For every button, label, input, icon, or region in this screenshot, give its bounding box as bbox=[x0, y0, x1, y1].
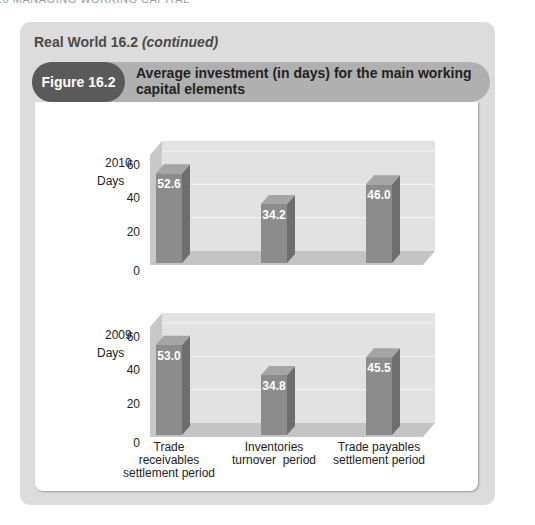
y-tick-label: 40 bbox=[120, 191, 140, 205]
running-head: 16 MANAGING WORKING CAPITAL bbox=[0, 0, 190, 5]
y-tick-label: 40 bbox=[120, 363, 140, 377]
bar-value-label: 46.0 bbox=[362, 188, 396, 202]
chart-2009: 53.034.845.52009Days0204060 bbox=[35, 274, 478, 449]
box-title: Real World 16.2 (continued) bbox=[34, 34, 218, 50]
figure-title: Average investment (in days) for the mai… bbox=[136, 65, 476, 97]
y-axis-title: Days bbox=[97, 174, 124, 188]
box-title-suffix: (continued) bbox=[142, 34, 218, 50]
chart-plot bbox=[35, 274, 478, 449]
bar-value-label: 34.2 bbox=[257, 208, 291, 222]
y-axis-title: Days bbox=[97, 346, 124, 360]
y-tick-label: 20 bbox=[120, 397, 140, 411]
bar-value-label: 45.5 bbox=[362, 361, 396, 375]
x-category-label: Trade payablessettlement period bbox=[329, 441, 429, 467]
y-tick-label: 60 bbox=[120, 158, 140, 172]
chart-2010: 52.634.246.02010Days0204060 bbox=[35, 102, 478, 277]
figure-number-badge: Figure 16.2 bbox=[32, 62, 125, 102]
chart-plot bbox=[35, 102, 478, 277]
x-category-label: Inventoriesturnover period bbox=[224, 441, 324, 467]
figure-panel: 52.634.246.02010Days0204060 53.034.845.5… bbox=[35, 102, 478, 491]
y-tick-label: 60 bbox=[120, 330, 140, 344]
y-tick-label: 20 bbox=[120, 225, 140, 239]
x-category-label: Tradereceivablessettlement period bbox=[119, 441, 219, 480]
bar-value-label: 34.8 bbox=[257, 379, 291, 393]
box-title-text: Real World 16.2 bbox=[34, 34, 138, 50]
bar-value-label: 53.0 bbox=[152, 349, 186, 363]
bar-value-label: 52.6 bbox=[152, 177, 186, 191]
